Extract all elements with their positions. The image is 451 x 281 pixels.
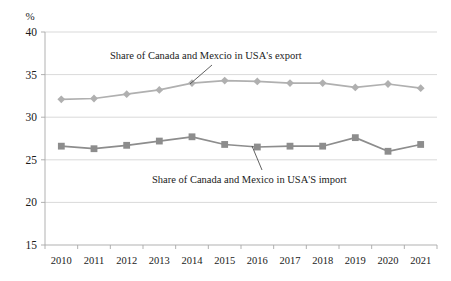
x-tick-label: 2016 xyxy=(247,255,268,266)
x-axis-tick-labels: 2010201120122013201420152016201720182019… xyxy=(51,255,431,266)
data-point-marker xyxy=(123,142,130,149)
x-tick-label: 2012 xyxy=(116,255,137,266)
line-chart: % 152025303540 2010201120122013201420152… xyxy=(0,0,451,281)
x-tick-label: 2014 xyxy=(182,255,204,266)
data-point-marker xyxy=(417,84,425,92)
data-point-marker xyxy=(254,144,261,151)
data-point-marker xyxy=(57,95,65,103)
import-annotation-label: Share of Canada and Mexico in USA'S impo… xyxy=(152,174,347,185)
data-point-marker xyxy=(90,95,98,103)
x-tickmarks xyxy=(45,245,437,249)
x-tick-label: 2011 xyxy=(84,255,105,266)
y-tick-label: 20 xyxy=(26,196,38,208)
data-point-marker xyxy=(286,79,294,87)
y-tickmarks xyxy=(41,32,45,245)
x-tick-label: 2019 xyxy=(345,255,366,266)
data-point-marker xyxy=(221,77,229,85)
y-axis-unit-label: % xyxy=(25,10,34,22)
data-point-marker xyxy=(385,148,392,155)
x-tick-label: 2010 xyxy=(51,255,72,266)
y-tick-label: 15 xyxy=(26,239,38,251)
chart-container: % 152025303540 2010201120122013201420152… xyxy=(0,0,451,281)
data-point-marker xyxy=(351,84,359,92)
data-point-marker xyxy=(319,79,327,87)
x-tick-label: 2013 xyxy=(149,255,170,266)
x-tick-label: 2015 xyxy=(214,255,235,266)
y-axis-tick-labels: 152025303540 xyxy=(26,26,38,251)
data-point-marker xyxy=(253,78,261,86)
data-point-marker xyxy=(58,143,65,150)
y-tick-label: 25 xyxy=(26,154,38,166)
data-point-marker xyxy=(155,86,163,94)
data-point-marker xyxy=(156,138,163,145)
x-tick-label: 2018 xyxy=(312,255,333,266)
series-import xyxy=(58,133,424,154)
x-tick-label: 2017 xyxy=(280,255,301,266)
y-tick-label: 35 xyxy=(26,69,38,81)
data-point-marker xyxy=(319,143,326,150)
export-annotation-label: Share of Canada and Mexcio in USA's expo… xyxy=(110,50,302,61)
series-line xyxy=(61,81,420,100)
data-point-marker xyxy=(91,145,98,152)
data-point-marker xyxy=(221,141,228,148)
data-point-marker xyxy=(352,134,359,141)
data-point-marker xyxy=(417,141,424,148)
x-tick-label: 2020 xyxy=(378,255,399,266)
y-tick-label: 30 xyxy=(26,111,38,123)
data-point-marker xyxy=(287,143,294,150)
x-tick-label: 2021 xyxy=(410,255,431,266)
data-point-marker xyxy=(123,90,131,98)
data-point-marker xyxy=(189,133,196,140)
series-export xyxy=(57,77,424,104)
y-tick-label: 40 xyxy=(26,26,38,38)
data-point-marker xyxy=(384,80,392,88)
series-line xyxy=(61,137,420,152)
